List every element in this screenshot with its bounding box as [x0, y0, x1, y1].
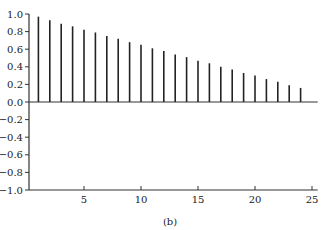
y-axis: 1.00.80.60.40.20.0−0.2−0.4−0.6−0.8−1.0: [0, 9, 29, 196]
y-tick-label: 0.8: [7, 26, 23, 37]
x-tick-label: 25: [306, 194, 319, 205]
y-tick-label: −0.8: [0, 167, 23, 178]
stems: [38, 17, 300, 102]
y-tick-label: 0.0: [7, 97, 23, 108]
figure-caption: (b): [163, 216, 177, 227]
y-tick-label: −0.2: [0, 114, 23, 125]
y-tick-label: −0.4: [0, 132, 23, 143]
y-tick-label: −1.0: [0, 185, 23, 196]
stem-chart: 1.00.80.60.40.20.0−0.2−0.4−0.6−0.8−1.0 5…: [0, 0, 323, 230]
x-tick-label: 15: [192, 194, 205, 205]
y-tick-label: 1.0: [7, 9, 23, 20]
x-tick-label: 20: [249, 194, 262, 205]
y-tick-label: 0.2: [7, 79, 23, 90]
y-tick-label: 0.4: [7, 61, 23, 72]
x-axis: 510152025: [29, 186, 318, 205]
x-tick-label: 10: [135, 194, 148, 205]
y-tick-label: 0.6: [7, 44, 23, 55]
y-tick-label: −0.6: [0, 149, 23, 160]
x-tick-label: 5: [81, 194, 87, 205]
